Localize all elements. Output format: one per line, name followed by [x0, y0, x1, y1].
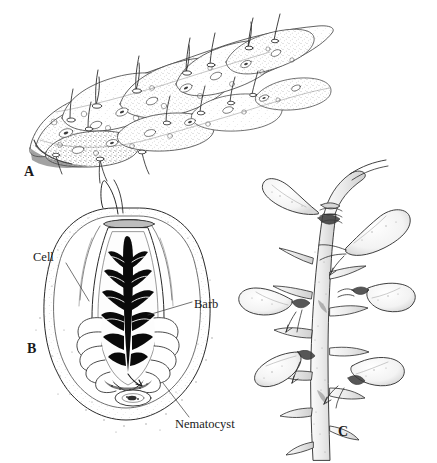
- panel-b-drawing: [35, 180, 212, 433]
- panel-letter-b: B: [27, 341, 37, 357]
- panel-c-drawing: [239, 160, 415, 460]
- label-cell: Cell: [33, 250, 54, 265]
- label-nematocyst: Nematocyst: [175, 417, 235, 432]
- nematocyst-capsule: [324, 357, 404, 408]
- nematocyst-capsule: [262, 179, 318, 215]
- nematocyst-capsule: [255, 350, 315, 386]
- illustration-canvas: [0, 0, 437, 463]
- panel-letter-a: A: [24, 164, 34, 180]
- panel-a-drawing: [30, 14, 334, 183]
- scientific-figure: A B C Cell Barb Nematocyst: [0, 0, 437, 463]
- panel-letter-c: C: [338, 424, 348, 440]
- label-barb: Barb: [194, 297, 218, 312]
